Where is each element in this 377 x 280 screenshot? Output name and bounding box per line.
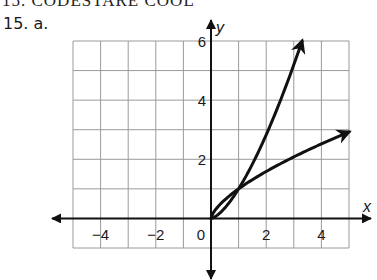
coordinate-plane-chart: −4−2024246 x y xyxy=(0,0,377,280)
y-tick-label: 2 xyxy=(198,151,206,168)
x-tick-label: −2 xyxy=(147,226,164,243)
x-tick-label: 4 xyxy=(317,226,325,243)
x-tick-label: −4 xyxy=(92,226,109,243)
tick-labels: −4−2024246 xyxy=(92,33,326,243)
y-tick-label: 4 xyxy=(198,92,206,109)
x-tick-label: 2 xyxy=(262,226,270,243)
x-tick-label: 0 xyxy=(197,226,205,243)
y-tick-label: 6 xyxy=(198,33,206,50)
y-axis-label: y xyxy=(215,19,225,36)
flat-curve xyxy=(211,132,349,218)
x-axis-label: x xyxy=(362,198,372,215)
